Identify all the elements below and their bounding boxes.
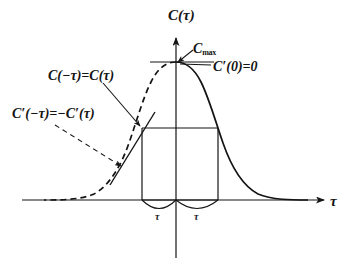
- brace-arc-right: [176, 200, 218, 209]
- inflection-tangent-line: [110, 112, 155, 185]
- c-max-subscript: max: [202, 48, 215, 57]
- c-max-label: Cmax: [193, 42, 216, 57]
- figure-canvas: [0, 0, 352, 270]
- y-axis-label: C(τ): [168, 8, 195, 23]
- x-axis-label: τ: [330, 194, 337, 209]
- leader-line-odd-symmetry: [55, 125, 121, 166]
- tau-interval-left-label: τ: [155, 212, 159, 222]
- leader-line-cmax: [178, 50, 193, 62]
- tau-interval-right-label: τ: [194, 212, 198, 222]
- leader-line-even-symmetry: [103, 83, 140, 126]
- correlation-function-figure: C(τ) τ Cmax C′(0)=0 C(−τ)=C(τ) C′(−τ)=−C…: [0, 0, 352, 270]
- leader-line-cprime0: [180, 64, 211, 65]
- brace-arc-left: [142, 200, 176, 209]
- c-max-base: C: [193, 41, 202, 56]
- even-symmetry-label: C(−τ)=C(τ): [48, 69, 114, 83]
- curve-solid-right: [176, 62, 308, 200]
- derivative-at-zero-label: C′(0)=0: [213, 60, 258, 74]
- odd-symmetry-label: C′(−τ)=−C′(τ): [12, 107, 95, 121]
